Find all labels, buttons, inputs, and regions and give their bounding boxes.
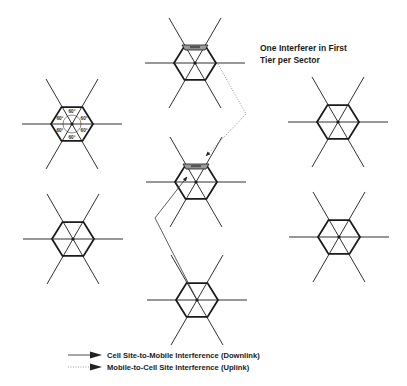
cell-site-right-top	[288, 77, 388, 167]
downlink-interference-path	[155, 177, 197, 300]
legend-label-uplink: Mobile-to-Cell Site Interference (Uplink…	[107, 363, 249, 372]
cell-site-left-top: 60°60°60°60°60°60°	[22, 79, 122, 169]
legend-label-downlink: Cell Site-to-Mobile Interference (Downli…	[107, 351, 260, 360]
angle-label: 60°	[56, 128, 63, 133]
solid-arrow-icon	[68, 350, 104, 360]
angle-label: 60°	[69, 135, 76, 140]
cell-site-dot	[193, 61, 196, 64]
cell-site-dot	[71, 237, 74, 240]
cell-site-dot	[336, 120, 339, 123]
cell-site-center-top	[145, 18, 245, 108]
dotted-arrow-icon	[68, 362, 104, 372]
uplink-interference-path	[206, 64, 246, 156]
cell-site-center-middle	[146, 137, 246, 227]
legend-item-uplink: Mobile-to-Cell Site Interference (Uplink…	[68, 361, 260, 373]
legend: Cell Site-to-Mobile Interference (Downli…	[68, 349, 260, 373]
angle-label: 60°	[81, 116, 88, 121]
cell-site-dot	[70, 122, 73, 125]
mobile-icon	[183, 164, 209, 169]
angle-label: 60°	[69, 109, 76, 114]
angle-label: 60°	[81, 128, 88, 133]
cell-site-right-bottom	[289, 192, 389, 282]
cell-site-dot	[194, 180, 197, 183]
title-line-2: Tier per Sector	[260, 54, 380, 66]
cell-site-left-bottom	[23, 194, 123, 284]
legend-item-downlink: Cell Site-to-Mobile Interference (Downli…	[68, 349, 260, 361]
diagram-title: One Interferer in First Tier per Sector	[260, 42, 380, 66]
mobile-icon	[182, 45, 208, 50]
angle-label: 60°	[56, 116, 63, 121]
title-line-1: One Interferer in First	[260, 42, 380, 54]
cell-site-dot	[337, 235, 340, 238]
